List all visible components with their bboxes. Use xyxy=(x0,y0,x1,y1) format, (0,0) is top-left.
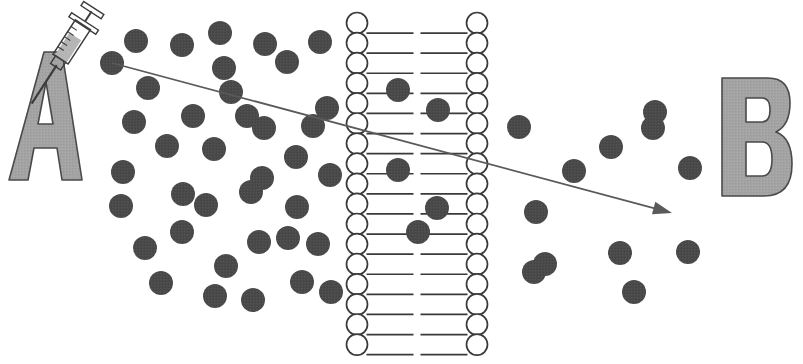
particle-compartment-b xyxy=(599,135,623,159)
particle-compartment-a xyxy=(124,29,148,53)
particle-compartment-a xyxy=(203,284,227,308)
particle-in-membrane xyxy=(406,220,430,244)
particle-compartment-a xyxy=(208,21,232,45)
particle-compartment-b xyxy=(522,260,546,284)
lipid-head-left xyxy=(347,234,368,255)
particle-compartment-a xyxy=(285,195,309,219)
lipid-head-right xyxy=(467,214,488,235)
lipid-head-left xyxy=(347,214,368,235)
particle-compartment-b xyxy=(507,115,531,139)
particle-compartment-b xyxy=(562,159,586,183)
lipid-head-right xyxy=(467,274,488,295)
lipid-head-right xyxy=(467,53,488,74)
particle-compartment-a xyxy=(275,50,299,74)
particle-compartment-a xyxy=(241,288,265,312)
particle-compartment-a xyxy=(319,280,343,304)
particle-in-membrane xyxy=(426,98,450,122)
lipid-head-right xyxy=(467,13,488,34)
particle-compartment-a xyxy=(149,271,173,295)
particle-compartment-a xyxy=(315,96,339,120)
diffusion-diagram xyxy=(0,0,803,364)
lipid-head-right xyxy=(467,113,488,134)
lipid-head-left xyxy=(347,73,368,94)
lipid-head-right xyxy=(467,314,488,335)
lipid-head-left xyxy=(347,193,368,214)
lipid-head-right xyxy=(467,254,488,275)
particle-compartment-a xyxy=(122,110,146,134)
lipid-head-left xyxy=(347,53,368,74)
lipid-head-right xyxy=(467,93,488,114)
lipid-head-left xyxy=(347,274,368,295)
particle-compartment-a xyxy=(194,193,218,217)
lipid-head-left xyxy=(347,33,368,54)
lipid-head-right xyxy=(467,73,488,94)
particle-compartment-a xyxy=(214,254,238,278)
lipid-head-left xyxy=(347,93,368,114)
particle-compartment-a xyxy=(136,76,160,100)
particle-compartment-b xyxy=(641,116,665,140)
lipid-head-right xyxy=(467,234,488,255)
lipid-head-left xyxy=(347,153,368,174)
lipid-head-right xyxy=(467,193,488,214)
particle-compartment-a xyxy=(170,220,194,244)
particle-compartment-a xyxy=(212,56,236,80)
lipid-head-right xyxy=(467,133,488,154)
lipid-head-right xyxy=(467,173,488,194)
particle-compartment-a xyxy=(318,163,342,187)
lipid-head-left xyxy=(347,254,368,275)
particle-compartment-a xyxy=(170,33,194,57)
lipid-head-right xyxy=(467,294,488,315)
compartment-b-label xyxy=(722,78,792,196)
lipid-head-right xyxy=(467,153,488,174)
diagram-canvas xyxy=(0,0,803,364)
particle-compartment-a xyxy=(284,145,308,169)
particle-compartment-a xyxy=(111,160,135,184)
lipid-head-left xyxy=(347,294,368,315)
particle-compartment-b xyxy=(608,241,632,265)
lipid-head-left xyxy=(347,334,368,355)
particle-compartment-a xyxy=(306,232,330,256)
particle-compartment-a xyxy=(253,32,277,56)
particle-compartment-a xyxy=(171,182,195,206)
particle-in-membrane xyxy=(425,196,449,220)
particle-compartment-b xyxy=(676,240,700,264)
lipid-head-right xyxy=(467,334,488,355)
particle-compartment-b xyxy=(622,280,646,304)
particle-compartment-a xyxy=(276,226,300,250)
particle-in-membrane xyxy=(386,78,410,102)
lipid-head-left xyxy=(347,133,368,154)
particle-compartment-b xyxy=(524,200,548,224)
particle-compartment-a xyxy=(181,104,205,128)
particle-compartment-a xyxy=(247,230,271,254)
particle-compartment-a xyxy=(155,134,179,158)
lipid-head-left xyxy=(347,173,368,194)
lipid-head-right xyxy=(467,33,488,54)
particle-compartment-a xyxy=(239,180,263,204)
particle-in-membrane xyxy=(386,158,410,182)
lipid-head-left xyxy=(347,314,368,335)
lipid-head-left xyxy=(347,13,368,34)
particle-compartment-a xyxy=(308,30,332,54)
particle-compartment-a xyxy=(290,270,314,294)
particle-compartment-a xyxy=(202,137,226,161)
particle-compartment-a xyxy=(109,194,133,218)
particle-compartment-a xyxy=(235,104,259,128)
particle-compartment-a xyxy=(133,236,157,260)
particle-compartment-b xyxy=(678,156,702,180)
